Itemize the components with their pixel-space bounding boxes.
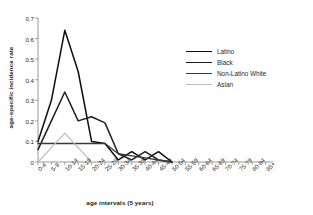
- x-axis-tick-labels: 0-45-910-1415-1920-2425-2930-3435-3940-4…: [38, 166, 278, 200]
- x-axis-title: age intervals (5 years): [0, 199, 240, 206]
- legend-line-icon: [186, 62, 212, 63]
- chart-figure: age-specific incidence rate 00.10.20.30.…: [0, 0, 313, 215]
- series-line-asian: [38, 133, 92, 162]
- y-axis-tick-label: 0.3: [14, 97, 34, 104]
- y-axis-tick-label: 0.1: [14, 138, 34, 145]
- legend-label: Black: [217, 59, 233, 66]
- y-axis-tick-label: 0.7: [14, 15, 34, 22]
- plot-area: [38, 18, 273, 162]
- chart-legend: LatinoBlackNon-Latino WhiteAsian: [186, 46, 310, 90]
- legend-label: Latino: [217, 48, 234, 55]
- y-axis-tick-label: 0: [14, 159, 34, 166]
- y-axis-tick-label: 0.4: [14, 76, 34, 83]
- series-line-black: [38, 92, 172, 162]
- x-axis-tick-label: 5-9: [50, 162, 60, 172]
- y-axis-tick-label: 0.6: [14, 35, 34, 42]
- y-axis-tick-label: 0.2: [14, 117, 34, 124]
- legend-item: Black: [186, 57, 310, 68]
- legend-line-icon: [186, 84, 212, 85]
- legend-item: Asian: [186, 79, 310, 90]
- legend-line-icon: [186, 73, 212, 74]
- x-axis-tick-label: 85+: [265, 161, 276, 172]
- legend-item: Non-Latino White: [186, 68, 310, 79]
- y-axis-tick-label: 0.5: [14, 56, 34, 63]
- y-axis-tick-labels: 00.10.20.30.40.50.60.7: [12, 18, 34, 162]
- legend-item: Latino: [186, 46, 310, 57]
- series-line-latino: [38, 30, 172, 162]
- legend-label: Non-Latino White: [217, 70, 266, 77]
- legend-label: Asian: [217, 81, 233, 88]
- x-axis-tick-label: 0-4: [37, 162, 47, 172]
- legend-line-icon: [186, 51, 212, 52]
- series-canvas: [38, 18, 273, 162]
